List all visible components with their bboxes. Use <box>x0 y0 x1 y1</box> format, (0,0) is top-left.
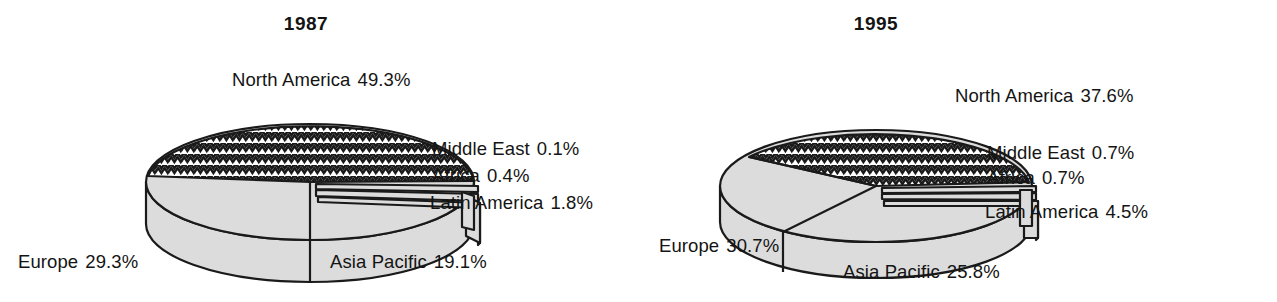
label-value: 0.7% <box>1042 167 1085 188</box>
label-middle-east-1987: Middle East0.1% <box>432 139 579 160</box>
label-name: Europe <box>659 235 719 256</box>
label-name: Africa <box>987 167 1035 188</box>
label-value: 0.7% <box>1092 142 1135 163</box>
label-value: 25.8% <box>947 261 1000 282</box>
label-name: Middle East <box>987 142 1085 163</box>
label-name: Latin America <box>985 201 1098 222</box>
label-value: 30.7% <box>726 235 779 256</box>
pie-chart-1995: 1995 <box>637 0 1277 302</box>
label-value: 37.6% <box>1081 85 1134 106</box>
slice-north-america-1987 <box>148 126 474 182</box>
label-name: Africa <box>432 165 480 186</box>
label-africa-1995: Africa0.7% <box>987 168 1084 189</box>
label-name: Asia Pacific <box>330 251 427 272</box>
label-value: 49.3% <box>358 69 411 90</box>
label-latin-america-1995: Latin America4.5% <box>985 202 1148 223</box>
pie-chart-1987: 1987 <box>0 0 640 302</box>
label-value: 4.5% <box>1105 201 1148 222</box>
label-value: 1.8% <box>550 192 593 213</box>
label-north-america-1987: North America49.3% <box>232 70 410 91</box>
label-north-america-1995: North America37.6% <box>955 86 1133 107</box>
label-name: Europe <box>18 251 78 272</box>
label-name: North America <box>232 69 351 90</box>
label-name: Latin America <box>430 192 543 213</box>
label-middle-east-1995: Middle East0.7% <box>987 143 1134 164</box>
label-value: 0.4% <box>487 165 530 186</box>
label-europe-1987: Europe29.3% <box>18 252 138 273</box>
label-latin-america-1987: Latin America1.8% <box>430 193 593 214</box>
label-name: North America <box>955 85 1074 106</box>
label-name: Asia Pacific <box>843 261 940 282</box>
label-africa-1987: Africa0.4% <box>432 166 529 187</box>
label-value: 0.1% <box>537 138 580 159</box>
label-value: 19.1% <box>434 251 487 272</box>
label-europe-1995: Europe30.7% <box>659 236 779 257</box>
label-value: 29.3% <box>85 251 138 272</box>
label-asia-pacific-1987: Asia Pacific19.1% <box>330 252 487 273</box>
label-asia-pacific-1995: Asia Pacific25.8% <box>843 262 1000 283</box>
label-name: Middle East <box>432 138 530 159</box>
slice-africa-1995 <box>882 193 1036 200</box>
